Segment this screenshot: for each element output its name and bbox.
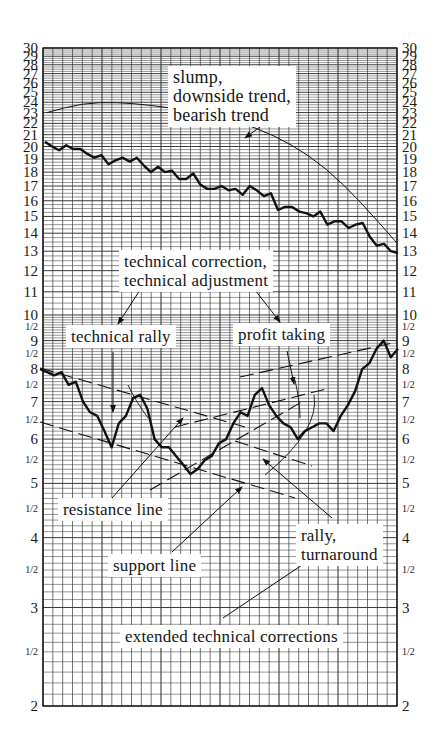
y-tick-label: 16 [23, 193, 39, 209]
y-tick-label: 1/2 [25, 564, 38, 575]
y-tick-label: 1/2 [25, 379, 38, 390]
y-tick-label: 6 [31, 431, 39, 447]
y-tick-label: 1/2 [402, 348, 415, 359]
label-support-line: support line [108, 554, 201, 577]
y-tick-label: 17 [23, 178, 39, 194]
label-support-text: support line [113, 556, 196, 575]
y-tick-label: 13 [402, 243, 417, 259]
label-slump-line2: downside trend, [173, 87, 291, 106]
label-resistance-text: resistance line [63, 500, 163, 519]
y-tick-label: 9 [402, 333, 410, 349]
label-technical-correction: technical correction, technical adjustme… [119, 250, 273, 292]
y-tick-label: 1/2 [402, 321, 415, 332]
series-corrections-price [40, 341, 398, 474]
y-tick-label: 15 [23, 208, 38, 224]
label-slump: slump, downside trend, bearish trend [168, 66, 296, 127]
y-tick-label: 8 [402, 361, 410, 377]
y-tick-label: 1/2 [402, 503, 415, 514]
y-tick-label: 13 [23, 243, 38, 259]
y-tick-label: 1/2 [25, 646, 38, 657]
y-tick-label: 14 [402, 225, 418, 241]
y-tick-label: 7 [31, 394, 39, 410]
series-downtrend-price [45, 142, 398, 253]
y-tick-label: 17 [402, 178, 418, 194]
y-tick-label: 1/2 [402, 646, 415, 657]
label-correction-line2: technical adjustment [124, 271, 268, 290]
y-tick-label: 3 [402, 600, 410, 616]
label-extended-corrections: extended technical corrections [120, 625, 343, 648]
chart-grid [43, 48, 397, 706]
y-tick-label: 2 [402, 698, 410, 714]
y-tick-label: 8 [31, 361, 39, 377]
y-tick-label: 11 [402, 284, 416, 300]
label-profit-taking: profit taking [233, 323, 330, 346]
y-tick-label: 4 [402, 530, 410, 546]
label-technical-rally: technical rally [66, 325, 176, 348]
label-turnaround-line1: rally, [301, 526, 378, 545]
y-tick-label: 12 [402, 263, 417, 279]
y-tick-label: 1/2 [25, 348, 38, 359]
y-tick-label: 1/2 [402, 454, 415, 465]
trend-lines [40, 342, 397, 498]
y-tick-label: 1/2 [402, 379, 415, 390]
y-tick-label: 1/2 [25, 503, 38, 514]
y-tick-label: 15 [402, 208, 417, 224]
y-tick-label: 1/2 [402, 414, 415, 425]
y-tick-label: 6 [402, 431, 410, 447]
label-slump-line1: slump, [173, 68, 291, 87]
label-correction-line1: technical correction, [124, 252, 268, 271]
y-tick-label: 16 [402, 193, 418, 209]
label-rally-turnaround: rally, turnaround [296, 524, 383, 566]
y-axis-right: 3029282726252423222120191817161514131211… [402, 40, 418, 714]
y-tick-label: 1/2 [25, 321, 38, 332]
label-resistance-line: resistance line [58, 498, 168, 521]
y-tick-label: 1/2 [25, 454, 38, 465]
y-tick-label: 5 [31, 475, 39, 491]
y-tick-label: 4 [31, 530, 39, 546]
y-tick-label: 1/2 [25, 414, 38, 425]
y-tick-label: 1/2 [402, 564, 415, 575]
label-slump-line3: bearish trend [173, 106, 291, 125]
y-tick-label: 9 [31, 333, 39, 349]
y-axis-left: 3029282726252423222120191817161514131211… [23, 40, 39, 714]
label-profit-text: profit taking [238, 325, 325, 344]
label-rally-text: technical rally [71, 327, 171, 346]
y-tick-label: 2 [31, 698, 39, 714]
y-tick-label: 5 [402, 475, 410, 491]
y-tick-label: 3 [31, 600, 39, 616]
y-tick-label: 12 [23, 263, 38, 279]
label-extended-text: extended technical corrections [125, 627, 338, 646]
label-turnaround-line2: turnaround [301, 545, 378, 564]
y-tick-label: 7 [402, 394, 410, 410]
y-tick-label: 14 [23, 225, 39, 241]
y-tick-label: 11 [24, 284, 38, 300]
